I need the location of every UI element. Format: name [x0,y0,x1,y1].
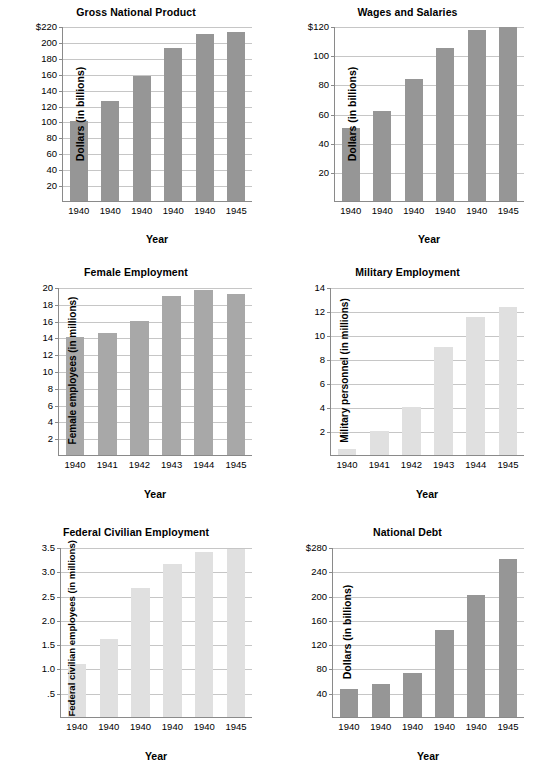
x-tick-labels: 194019401940194019401945 [335,206,524,216]
chart-panel-gross-national-product: Gross National Product$22020018016014012… [0,0,272,260]
y-tick-label: 6 [48,401,53,411]
charts-sheet: Gross National Product$22020018016014012… [0,0,543,778]
x-tick-label: 1940 [335,206,367,216]
x-tick-label: 1940 [125,722,157,732]
bar-slot [492,288,524,455]
x-tick-label: 1940 [428,722,460,732]
x-axis-title: Year [330,488,524,500]
bar [131,588,149,717]
bar-slot [430,27,462,201]
bar [227,294,246,455]
y-tick-label: 100 [41,118,57,128]
bar-slot [221,27,253,201]
x-tick-label: 1940 [126,206,158,216]
x-tick-label: 1940 [367,206,399,216]
x-tick-labels: 194019401940194019401945 [61,722,252,732]
bar-series [331,288,524,455]
y-tick-label: 60 [46,150,57,160]
chart-panel-federal-civilian-employment: Federal Civilian Employment3.53.02.52.01… [0,520,272,778]
plot-area: 1412108642194019411942194319441945 [330,288,524,456]
bar [194,290,213,455]
x-tick-label: 1940 [93,722,125,732]
x-tick-label: 1940 [59,460,91,470]
x-tick-label: 1943 [428,460,460,470]
y-tick-label: 2.0 [42,616,55,626]
x-tick-label: 1940 [95,206,127,216]
y-tick-label: 80 [318,81,329,91]
y-axis-title: Dollars (in billions) [341,547,353,717]
bar [370,431,389,455]
y-axis-title: Federal civilian employees (in millions) [66,547,77,717]
bar-slot [397,548,429,717]
x-tick-label: 1945 [492,722,524,732]
bar-slot [188,548,220,717]
chart-title: National Debt [272,526,543,538]
bar-slot [461,27,493,201]
bar-slot [398,27,430,201]
y-tick-label: 80 [46,134,57,144]
x-tick-label: 1940 [158,206,190,216]
bar [227,32,245,201]
bar-slot [460,548,492,717]
x-tick-label: 1940 [430,206,462,216]
x-tick-label: 1940 [189,206,221,216]
x-tick-label: 1940 [365,722,397,732]
bar-slot [123,288,155,455]
x-axis-title: Year [334,233,524,245]
bar [402,407,421,455]
bar-slot [189,27,221,201]
bar [467,595,485,717]
plot-area: 3.53.02.52.01.51.0.519401940194019401940… [60,548,252,718]
x-tick-labels: 194019401940194019401945 [333,722,524,732]
y-tick-label: 18 [42,300,53,310]
y-axis-title: Military personnel (in millions) [339,287,350,455]
y-tick-label: 10 [314,331,325,341]
x-tick-label: 1945 [220,460,252,470]
y-tick-label: 2 [48,434,53,444]
bar [196,34,214,201]
y-tick-label: 140 [41,86,57,96]
bar-slot [125,548,157,717]
x-tick-label: 1942 [395,460,427,470]
y-tick-label: 60 [318,110,329,120]
bar-slot [365,548,397,717]
bar-slot [91,288,123,455]
y-tick-label: 8 [320,355,325,365]
x-tick-label: 1940 [331,460,363,470]
bar-slot [460,288,492,455]
plot-area: $12010080604020194019401940194019401945 [334,27,524,202]
bar [164,48,182,201]
y-tick-label: $120 [308,22,329,32]
x-tick-label: 1942 [123,460,155,470]
y-tick-label: 1.5 [42,640,55,650]
x-tick-labels: 194019401940194019401945 [63,206,252,216]
bar-slot [367,27,399,201]
x-tick-label: 1945 [220,722,252,732]
chart-title: Female Employment [0,266,272,278]
y-tick-label: 2 [320,427,325,437]
bar [163,564,181,717]
x-axis-title: Year [60,750,252,762]
y-tick-label: 16 [42,317,53,327]
bar [499,307,518,455]
y-tick-label: 3.5 [42,543,55,553]
y-tick-label: 8 [48,384,53,394]
x-tick-label: 1941 [363,460,395,470]
x-tick-label: 1940 [397,722,429,732]
y-tick-label: 20 [46,181,57,191]
y-tick-label: 120 [311,640,327,650]
x-tick-label: 1940 [63,206,95,216]
bar-series [335,27,524,201]
bar [372,684,390,717]
bar [133,76,151,201]
y-tick-label: 2.5 [42,592,55,602]
x-tick-label: 1940 [188,722,220,732]
chart-title: Wages and Salaries [272,6,543,18]
chart-title: Military Employment [272,266,543,278]
bar-slot [156,288,188,455]
chart-grid: Gross National Product$22020018016014012… [0,0,543,778]
y-axis-title: Dollars (in billions) [346,26,358,201]
y-tick-label: 120 [41,102,57,112]
y-tick-label: 4 [320,403,325,413]
bar-slot [93,548,125,717]
